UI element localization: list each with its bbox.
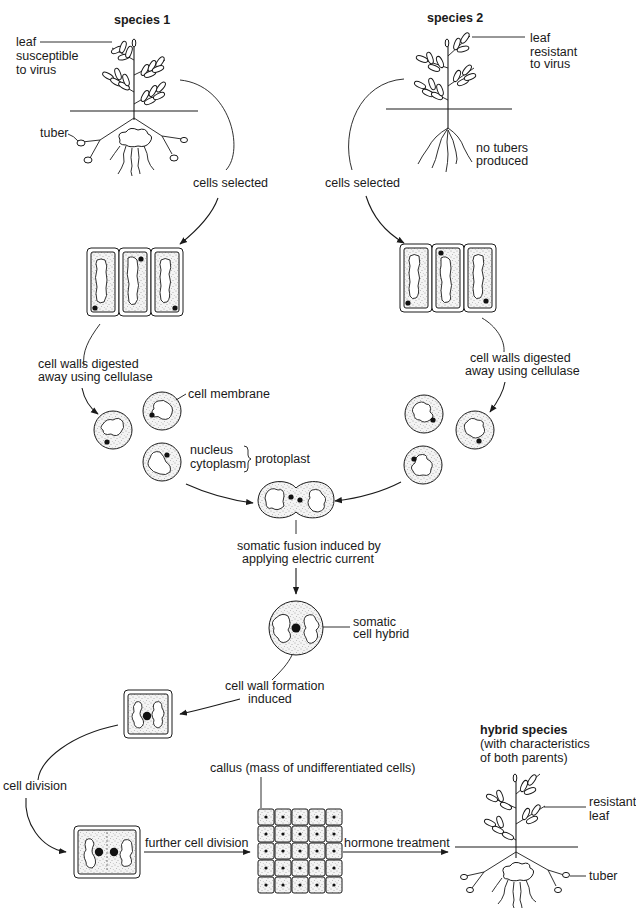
- dividing-cell: [74, 826, 140, 878]
- cytoplasm-label: cytoplasm: [190, 457, 246, 471]
- callus-nucleus: [298, 866, 301, 869]
- species-2-heading: species 2: [427, 11, 483, 25]
- callus-nucleus: [332, 832, 335, 835]
- hybrid-tuber-label: tuber: [589, 869, 618, 883]
- callus-nucleus: [264, 849, 267, 852]
- callus-nucleus: [264, 883, 267, 886]
- right-digestion-label-2: away using cellulase: [465, 364, 580, 378]
- species-2-leaf-label-3: to virus: [530, 57, 570, 71]
- walled-hybrid-cell: [124, 690, 172, 738]
- callus-nucleus: [315, 832, 318, 835]
- species-1-plant-icon: [70, 39, 198, 176]
- hybrid-species-sub-1: (with characteristics: [480, 737, 590, 751]
- callus-nucleus: [298, 832, 301, 835]
- species-2-roots-label-1: no tubers: [476, 141, 528, 155]
- callus-nucleus: [332, 849, 335, 852]
- species-1-group: species 1 leaf susceptible to virus: [16, 13, 268, 244]
- callus-nucleus: [281, 883, 284, 886]
- callus-nucleus: [264, 866, 267, 869]
- species-2-leaf-label-1: leaf: [530, 31, 551, 45]
- fusion-label-1: somatic fusion induced by: [237, 539, 382, 553]
- callus-nucleus: [315, 849, 318, 852]
- hybrid-leaf-label-2: leaf: [589, 809, 610, 823]
- somatic-hybridisation-diagram: species 1 leaf susceptible to virus: [0, 0, 636, 914]
- callus-nucleus: [315, 883, 318, 886]
- species-2-group: species 2 leaf resistant to virus: [325, 11, 578, 243]
- hybrid-cell-label-2: cell hybrid: [353, 627, 409, 641]
- callus-nucleus: [264, 815, 267, 818]
- species-1-protoplasts: [94, 392, 181, 481]
- callus-nucleus: [332, 883, 335, 886]
- callus-nucleus: [315, 815, 318, 818]
- nucleus-label: nucleus: [190, 443, 233, 457]
- species-2-cells-selected-label: cells selected: [325, 176, 400, 190]
- callus-nucleus: [332, 815, 335, 818]
- callus-nucleus: [332, 866, 335, 869]
- hybrid-species-sub-2: of both parents): [480, 751, 568, 765]
- species-1-plant-cells: [87, 248, 183, 316]
- wall-formation-label-2: induced: [248, 692, 292, 706]
- cell-membrane-label: cell membrane: [188, 387, 270, 401]
- hybrid-species-heading: hybrid species: [480, 723, 568, 737]
- species-2-roots-label-2: produced: [476, 154, 528, 168]
- species-1-heading: species 1: [114, 13, 170, 27]
- wall-formation-label-1: cell wall formation: [225, 679, 324, 693]
- hybrid-plant-icon: [455, 774, 578, 908]
- fusion-label-2: applying electric current: [242, 552, 375, 566]
- protoplast-label: protoplast: [255, 452, 310, 466]
- callus-nucleus: [264, 832, 267, 835]
- callus-nucleus: [281, 866, 284, 869]
- left-digestion-label-2: away using cellulase: [38, 370, 153, 384]
- species-1-leaf-label-1: leaf: [16, 35, 37, 49]
- species-2-protoplasts: [404, 395, 494, 484]
- species-1-cells-selected-label: cells selected: [193, 176, 268, 190]
- hybrid-leaf-label-1: resistant: [589, 795, 636, 809]
- right-digestion-label-1: cell walls digested: [470, 351, 571, 365]
- cell-division-label: cell division: [3, 779, 67, 793]
- hormone-label: hormone treatment: [344, 836, 450, 850]
- further-division-label: further cell division: [145, 836, 249, 850]
- callus-grid: [258, 809, 342, 893]
- somatic-cell-hybrid: [269, 601, 323, 655]
- callus-nucleus: [281, 815, 284, 818]
- fused-protoplasts: [258, 482, 334, 518]
- callus-label: callus (mass of undifferentiated cells): [210, 761, 415, 775]
- callus-nucleus: [315, 866, 318, 869]
- left-digestion-label-1: cell walls digested: [38, 357, 139, 371]
- species-2-plant-cells: [400, 244, 496, 312]
- callus-nucleus: [298, 883, 301, 886]
- species-1-leaf-label-3: to virus: [16, 63, 56, 77]
- species-1-leaf-label-2: susceptible: [16, 49, 79, 63]
- callus-nucleus: [298, 849, 301, 852]
- callus-nucleus: [281, 832, 284, 835]
- callus-nucleus: [298, 815, 301, 818]
- species-1-tuber-label: tuber: [40, 126, 69, 140]
- callus-nucleus: [281, 849, 284, 852]
